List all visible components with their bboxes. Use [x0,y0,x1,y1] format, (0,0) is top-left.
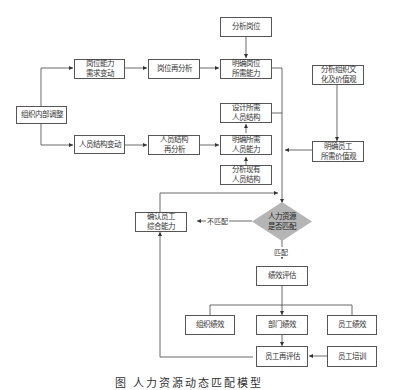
node-position-demand-change: 岗位能力 需求变动 [74,59,125,79]
node-staff-structure-change: 人员结构变动 [74,135,125,154]
node-staff-structure-reanalysis: 人员结构 再分析 [148,135,200,155]
node-position-reanalysis: 岗位再分析 [148,59,200,79]
node-define-staff-ability: 明确所需 人员能力 [220,135,272,155]
node-employee-performance: 员工绩效 [327,315,377,335]
node-org-adjust: 组织内部调整 [16,106,67,124]
decision-hr-match: 人力资源 是否匹配 [252,202,312,241]
node-dept-performance: 部门绩效 [256,315,308,335]
node-design-staff-structure: 设计所需 人员结构 [220,103,272,123]
edge-label-match: 匹配 [273,247,289,257]
decision-label: 人力资源 是否匹配 [252,212,312,232]
node-analyze-culture: 分析组织文 化及价值观 [312,65,364,85]
node-analyze-existing-structure: 分析现有 人员结构 [220,165,272,185]
node-employee-training: 员工培训 [327,346,377,367]
node-define-employee-values: 明确员工 所需价值观 [312,141,364,162]
node-define-position-ability: 明确岗位 所需能力 [220,59,272,79]
node-analyze-position: 分析岗位 [220,17,272,37]
edge-label-no-match: 不匹配 [206,216,229,226]
node-confirm-employee-ability: 确认员工 综合能力 [135,212,187,232]
node-performance-eval: 绩效评估 [256,266,308,286]
figure-caption: 图 人力资源动态匹配模型 [115,374,264,390]
node-org-performance: 组织绩效 [185,315,235,335]
node-employee-reeval: 员工再评估 [256,346,308,367]
